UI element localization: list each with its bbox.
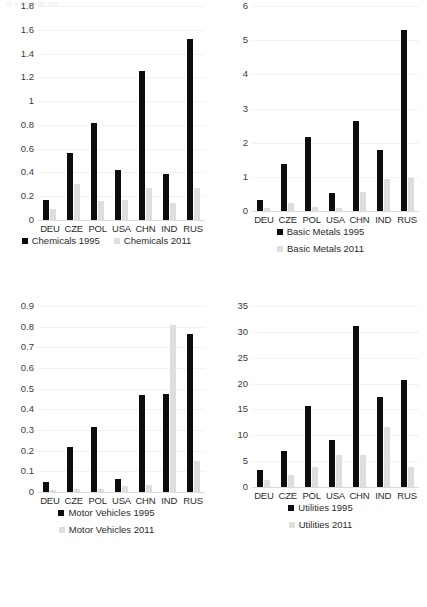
legend-item[interactable]: Basic Metals 1995 — [277, 226, 365, 237]
bar-group — [371, 6, 395, 211]
x-axis-tick-label: CHN — [347, 214, 371, 226]
bar-group — [181, 306, 205, 492]
bar — [194, 461, 200, 492]
x-axis-tick-label: RUS — [181, 223, 205, 235]
legend-label: Basic Metals 2011 — [287, 243, 364, 254]
bar — [122, 486, 128, 492]
x-axis-tick-label: CZE — [276, 490, 300, 502]
bar — [288, 475, 294, 487]
legend-motor-vehicles: Motor Vehicles 1995Motor Vehicles 2011 — [0, 507, 213, 535]
bars-chemicals — [38, 6, 205, 220]
x-axis-motor-vehicles: DEUCZEPOLUSACHNINDRUS — [38, 495, 205, 507]
bar — [43, 200, 49, 220]
bar-group — [38, 6, 62, 220]
x-axis-tick-label: RUS — [395, 490, 419, 502]
legend-item[interactable]: Utilities 2011 — [289, 519, 353, 530]
figure-page: of a broader set 00.20.40.60.811.21.41.6… — [0, 0, 427, 607]
bar — [288, 203, 294, 211]
legend-swatch-icon — [58, 510, 64, 516]
bar-group — [62, 6, 86, 220]
x-axis-basic-metals: DEUCZEPOLUSACHNINDRUS — [252, 214, 419, 226]
bar-group — [157, 306, 181, 492]
bar — [115, 479, 121, 492]
y-axis-tick-label: 1.6 — [21, 25, 34, 35]
y-axis-tick-label: 3 — [243, 104, 248, 114]
bar — [146, 485, 152, 492]
bar — [336, 208, 342, 211]
legend-label: Chemicals 1995 — [32, 235, 100, 246]
bar — [146, 188, 152, 220]
bar — [98, 201, 104, 220]
bar-group — [133, 6, 157, 220]
y-axis-tick-label: 0.2 — [21, 191, 34, 201]
y-axis-tick-label: 4 — [243, 69, 248, 79]
bar — [305, 137, 311, 211]
bar — [329, 440, 335, 487]
legend-item[interactable]: Utilities 1995 — [288, 502, 352, 513]
y-axis-motor-vehicles: 00.10.20.30.40.50.60.70.80.9 — [0, 306, 34, 492]
x-axis-tick-label: CZE — [62, 223, 86, 235]
gridline — [252, 487, 419, 488]
bar — [163, 174, 169, 220]
y-axis-tick-label: 0.6 — [21, 144, 34, 154]
bar — [257, 200, 263, 211]
bar — [91, 123, 97, 220]
plot-area-utilities: 05101520253035 DEUCZEPOLUSACHNINDRUS — [252, 306, 419, 502]
bar — [360, 455, 366, 487]
legend-basic-metals: Basic Metals 1995Basic Metals 2011 — [214, 226, 427, 254]
x-axis-tick-label: IND — [371, 490, 395, 502]
y-axis-tick-label: 1.4 — [21, 49, 34, 59]
bar — [336, 455, 342, 487]
bar-group — [86, 306, 110, 492]
x-axis-tick-label: POL — [300, 214, 324, 226]
y-axis-basic-metals: 0123456 — [214, 6, 248, 211]
x-axis-tick-label: POL — [86, 223, 110, 235]
y-axis-tick-label: 0.3 — [21, 425, 34, 435]
bars-basic-metals — [252, 6, 419, 211]
bar — [74, 489, 80, 492]
bar — [353, 121, 359, 211]
legend-item[interactable]: Chemicals 2011 — [114, 235, 191, 246]
x-axis-chemicals: DEUCZEPOLUSACHNINDRUS — [38, 223, 205, 235]
y-axis-tick-label: 0 — [29, 215, 34, 225]
x-axis-tick-label: CZE — [62, 495, 86, 507]
legend-item[interactable]: Motor Vehicles 2011 — [59, 524, 154, 535]
y-axis-tick-label: 10 — [237, 430, 248, 440]
bar — [305, 406, 311, 487]
y-axis-tick-label: 0.1 — [21, 466, 34, 476]
x-axis-tick-label: DEU — [38, 223, 62, 235]
y-axis-tick-label: 0.6 — [21, 363, 34, 373]
plot-area-chemicals: 00.20.40.60.811.21.41.61.8 DEUCZEPOLUSAC… — [38, 6, 205, 235]
y-axis-tick-label: 25 — [237, 353, 248, 363]
y-axis-tick-label: 6 — [243, 1, 248, 11]
y-axis-tick-label: 1.8 — [21, 1, 34, 11]
x-axis-tick-label: POL — [86, 495, 110, 507]
y-axis-tick-label: 1.2 — [21, 72, 34, 82]
bar-group — [276, 6, 300, 211]
gridline — [252, 211, 419, 212]
bar — [91, 427, 97, 492]
x-axis-tick-label: POL — [300, 490, 324, 502]
y-axis-tick-label: 1 — [29, 96, 34, 106]
legend-item[interactable]: Basic Metals 2011 — [277, 243, 364, 254]
bar — [67, 153, 73, 220]
y-axis-utilities: 05101520253035 — [214, 306, 248, 487]
bar-group — [62, 306, 86, 492]
bar-group — [395, 6, 419, 211]
bar — [139, 395, 145, 492]
legend-swatch-icon — [288, 505, 294, 511]
y-axis-tick-label: 5 — [243, 35, 248, 45]
bar — [187, 39, 193, 220]
x-axis-tick-label: IND — [157, 223, 181, 235]
bar-group — [252, 6, 276, 211]
bar-group — [133, 306, 157, 492]
legend-swatch-icon — [22, 238, 28, 244]
legend-item[interactable]: Chemicals 1995 — [22, 235, 100, 246]
y-axis-tick-label: 0.4 — [21, 167, 34, 177]
bar — [50, 490, 56, 492]
bar — [264, 208, 270, 211]
bar — [139, 71, 145, 220]
legend-item[interactable]: Motor Vehicles 1995 — [58, 507, 154, 518]
bar — [384, 179, 390, 211]
bar — [401, 380, 407, 487]
